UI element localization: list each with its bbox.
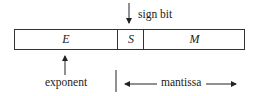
mantissa-label: mantissa bbox=[161, 76, 201, 88]
sign-bit-label: sign bit bbox=[138, 8, 172, 20]
arrows-layer bbox=[0, 0, 258, 96]
exponent-label: exponent bbox=[45, 76, 87, 88]
